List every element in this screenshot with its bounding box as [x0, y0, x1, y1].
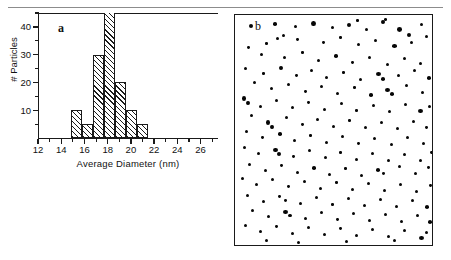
- nanoparticle: [369, 93, 373, 97]
- histogram-bar: [82, 124, 93, 138]
- nanoparticle: [403, 229, 406, 232]
- nanoparticle: [291, 106, 294, 109]
- nanoparticle: [355, 158, 358, 161]
- y-tick-major: 10: [33, 110, 39, 111]
- y-tick-major: 20: [33, 82, 39, 83]
- nanoparticle: [336, 218, 339, 221]
- nanoparticle: [336, 92, 339, 95]
- nanoparticle: [323, 108, 326, 111]
- nanoparticle: [383, 189, 386, 192]
- nanoparticle: [428, 220, 432, 224]
- nanoparticle: [276, 37, 279, 40]
- y-tick-major: 30: [33, 54, 39, 55]
- nanoparticle: [392, 44, 397, 48]
- nanoparticle: [396, 127, 399, 130]
- nanoparticle: [345, 240, 348, 243]
- nanoparticle: [356, 19, 359, 22]
- nanoparticle: [412, 120, 415, 123]
- y-tick-minor: [35, 12, 39, 13]
- x-tick-minor: [72, 139, 73, 142]
- nanoparticle: [342, 71, 345, 74]
- nanoparticle: [351, 188, 354, 191]
- nanoparticle: [352, 212, 355, 215]
- nanoparticle: [296, 38, 299, 41]
- nanoparticle: [267, 215, 270, 218]
- nanoparticle: [249, 24, 253, 28]
- nanoparticle: [288, 214, 292, 217]
- x-tick-label: 12: [26, 145, 50, 155]
- nanoparticle: [399, 183, 402, 186]
- nanoparticle: [324, 156, 327, 159]
- nanoparticle: [320, 211, 323, 214]
- nanoparticle: [308, 149, 311, 152]
- nanoparticle: [386, 63, 389, 66]
- nanoparticle: [376, 72, 381, 76]
- nanoparticle: [397, 74, 400, 77]
- nanoparticle: [259, 230, 262, 233]
- figure-root: a 10203040 1214161820222426 Average Diam…: [0, 0, 451, 260]
- plot-top-frame-line: [38, 13, 218, 14]
- nanoparticle: [304, 90, 307, 93]
- nanoparticle: [416, 214, 419, 217]
- nanoparticle: [332, 125, 335, 128]
- nanoparticle: [382, 172, 385, 175]
- nanoparticle: [262, 72, 265, 75]
- nanoparticle: [275, 99, 278, 102]
- nanoparticle: [319, 187, 322, 190]
- histogram-bar: [115, 82, 126, 138]
- nanoparticle: [348, 119, 351, 122]
- nanoparticle: [381, 77, 385, 81]
- nanoparticle: [374, 39, 377, 42]
- y-tick-minor: [35, 96, 39, 97]
- x-tick-label: 14: [49, 145, 73, 155]
- nanoparticle: [320, 85, 323, 88]
- nanoparticle: [275, 225, 278, 228]
- nanoparticle: [262, 200, 265, 203]
- nanoparticle: [279, 66, 283, 70]
- nanoparticle: [385, 88, 390, 92]
- nanoparticle: [311, 21, 316, 26]
- nanoparticle: [425, 126, 428, 129]
- nanoparticle: [413, 69, 416, 72]
- nanoparticle: [255, 183, 258, 186]
- x-tick-minor: [188, 139, 189, 142]
- nanoparticle: [265, 239, 268, 242]
- panel-a-label: a: [58, 21, 64, 36]
- nanoparticle: [380, 121, 383, 124]
- nanoparticle: [364, 126, 367, 129]
- x-tick-minor: [142, 139, 143, 142]
- nanoparticle: [280, 164, 283, 167]
- nanoparticle: [371, 228, 374, 231]
- nanoparticle: [248, 163, 251, 166]
- nanoparticle: [335, 181, 338, 184]
- nanoparticle: [368, 56, 371, 59]
- nanoparticle: [384, 18, 387, 21]
- y-axis-title: # Particles: [8, 25, 19, 95]
- nanoparticle: [357, 43, 360, 46]
- nanoparticle: [331, 203, 334, 206]
- nanoparticle: [372, 104, 375, 107]
- nanoparticle: [250, 114, 253, 117]
- nanoparticle: [411, 199, 414, 202]
- nanoparticle: [390, 92, 394, 96]
- nanoparticle: [315, 196, 318, 199]
- nanoparticle: [397, 27, 402, 32]
- nanoparticle: [419, 159, 422, 162]
- nanoparticle: [414, 172, 417, 175]
- x-tick-minor: [119, 139, 120, 142]
- nanoparticle: [384, 213, 387, 216]
- y-tick-major: 40: [33, 26, 39, 27]
- nanoparticle: [395, 205, 398, 208]
- x-tick-label: 16: [72, 145, 96, 155]
- x-axis-line: [38, 138, 218, 139]
- histogram-bar: [126, 110, 137, 138]
- nanoparticle: [325, 141, 328, 144]
- nanoparticle: [427, 76, 431, 80]
- nanoparticle: [243, 146, 246, 149]
- panel-b-micrograph: b: [234, 14, 433, 246]
- nanoparticle: [304, 217, 307, 220]
- nanoparticle: [357, 142, 360, 145]
- x-tick-label: 26: [189, 145, 213, 155]
- nanoparticle: [307, 226, 310, 229]
- nanoparticle: [241, 177, 244, 180]
